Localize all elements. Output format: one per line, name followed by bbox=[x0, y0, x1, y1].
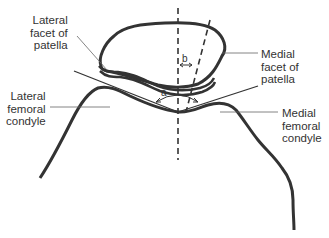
angle-a-arrow-right bbox=[193, 98, 198, 102]
patellofemoral-diagram: Lateral facet of patella Medial facet of… bbox=[0, 0, 329, 238]
label-medial-facet-of-patella: Medial facet of patella bbox=[261, 48, 299, 86]
label-medial-femoral-condyle: Medial femoral condyle bbox=[282, 107, 322, 145]
angle-b-label: b bbox=[182, 54, 188, 64]
label-lateral-femoral-condyle: Lateral femoral condyle bbox=[6, 90, 46, 128]
label-lateral-facet-of-patella: Lateral facet of patella bbox=[30, 14, 68, 52]
femoral-condyle-profile bbox=[40, 87, 294, 230]
angle-a-label: a bbox=[161, 88, 167, 98]
